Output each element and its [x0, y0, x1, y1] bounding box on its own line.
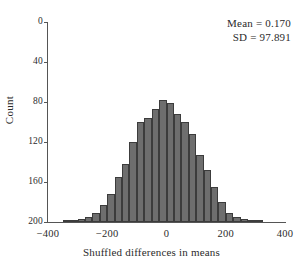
y-axis-title: Count: [3, 80, 15, 140]
x-tick-label: 0: [137, 228, 197, 239]
x-tick-label: −200: [77, 228, 137, 239]
x-tick-label: 400: [255, 228, 303, 239]
x-tick-label: −400: [18, 228, 78, 239]
x-axis-title: Shuffled differences in means: [0, 246, 303, 258]
sd-annotation: SD = 97.891: [227, 30, 291, 44]
x-tick-label: 200: [196, 228, 256, 239]
histogram-figure: 04080120160200 −400−2000200400 Shuffled …: [0, 0, 303, 268]
stats-annotation: Mean = 0.170 SD = 97.891: [227, 16, 291, 44]
mean-annotation: Mean = 0.170: [227, 16, 291, 30]
